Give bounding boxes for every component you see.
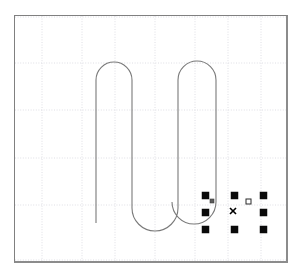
handle-bottom-center[interactable] (231, 226, 238, 233)
rotation-center-marker[interactable] (230, 208, 236, 214)
grid-horizontal-lines (15, 17, 287, 260)
anchor-point-hollow[interactable] (246, 199, 251, 204)
anchor-point-endpoint[interactable] (210, 199, 214, 203)
handle-middle-left[interactable] (202, 209, 209, 216)
canvas-svg-surface[interactable] (15, 16, 287, 262)
grid-vertical-lines (42, 16, 261, 262)
app-root: Vector Drawing Canvas Rounded serpentine… (0, 0, 305, 279)
handle-middle-right[interactable] (260, 209, 267, 216)
handle-top-center[interactable] (231, 192, 238, 199)
handle-top-right[interactable] (260, 192, 267, 199)
handle-bottom-right[interactable] (260, 226, 267, 233)
drawing-canvas[interactable] (14, 15, 288, 263)
handle-top-left[interactable] (202, 192, 209, 199)
handle-bottom-left[interactable] (202, 226, 209, 233)
